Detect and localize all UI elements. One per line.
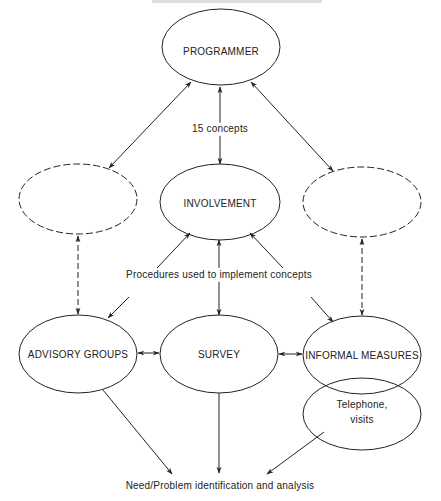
programmer-label: PROGRAMMER [183,46,259,59]
arrow-involvement-procedures-right [250,233,283,268]
arrow-involvement-procedures-left [157,233,190,268]
procedures-edge-label: Procedures used to implement concepts [124,269,314,282]
arrow-procedures-informal [311,297,333,322]
advisory-groups-label: ADVISORY GROUPS [28,349,128,362]
outcome-label: Need/Problem identification and analysis [126,480,315,493]
survey-label: SURVEY [198,349,240,362]
involvement-label: INVOLVEMENT [183,198,256,211]
arrow-programmer-dashed-right [251,82,333,171]
dashed-right-node [303,167,421,237]
informal-measures-label: INFORMAL MEASURES [305,350,419,363]
telephone-label: Telephone, [337,399,388,412]
arrow-programmer-dashed-left [109,82,191,168]
arrow-advisory-outcome [103,390,172,474]
arrow-telephone-outcome [267,432,324,474]
arrow-procedures-advisory [108,297,129,318]
visits-label: visits [350,414,373,427]
diagram-canvas [0,0,441,501]
concepts-edge-label: 15 concepts [190,123,250,136]
dashed-left-node [19,164,137,234]
